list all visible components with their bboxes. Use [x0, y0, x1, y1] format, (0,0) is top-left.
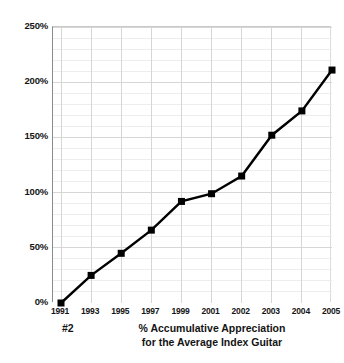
chart-caption-line-2: for the Average Index Guitar — [110, 335, 314, 349]
x-axis-tick-label: 2001 — [194, 306, 228, 316]
chart-figure: 0% 50% 100% 150% 200% 250% 1991 1993 199… — [0, 0, 344, 363]
x-axis-tick-label: 2003 — [254, 306, 288, 316]
data-point-marker — [118, 250, 125, 257]
data-point-marker — [148, 227, 155, 234]
x-axis-tick-label: 1995 — [103, 306, 137, 316]
x-axis-tick-label: 1999 — [163, 306, 197, 316]
figure-number-label: #2 — [62, 322, 74, 334]
x-axis-tick-label: 2002 — [224, 306, 258, 316]
chart-caption: % Accumulative Appreciation for the Aver… — [110, 321, 314, 349]
data-point-marker — [208, 190, 215, 197]
x-axis-tick-label: 2005 — [314, 306, 344, 316]
plot-area — [52, 26, 331, 302]
x-axis-tick-label: 1991 — [43, 306, 77, 316]
data-point-marker — [268, 132, 275, 139]
y-axis-tick-label: 150% — [4, 131, 48, 141]
data-point-marker — [238, 173, 245, 180]
y-axis-tick-label: 200% — [4, 76, 48, 86]
x-axis-tick-label: 2004 — [284, 306, 318, 316]
data-point-marker — [298, 107, 305, 114]
y-axis-tick-label: 0% — [4, 297, 48, 307]
data-series-line — [53, 27, 332, 303]
y-axis-tick-label: 50% — [4, 242, 48, 252]
x-axis-tick-label: 1993 — [73, 306, 107, 316]
data-point-marker — [178, 198, 185, 205]
data-point-marker — [329, 67, 336, 74]
x-axis-tick-label: 1997 — [133, 306, 167, 316]
data-point-marker — [88, 272, 95, 279]
chart-caption-line-1: % Accumulative Appreciation — [110, 321, 314, 335]
y-axis-tick-label: 250% — [4, 21, 48, 31]
y-axis-tick-label: 100% — [4, 187, 48, 197]
